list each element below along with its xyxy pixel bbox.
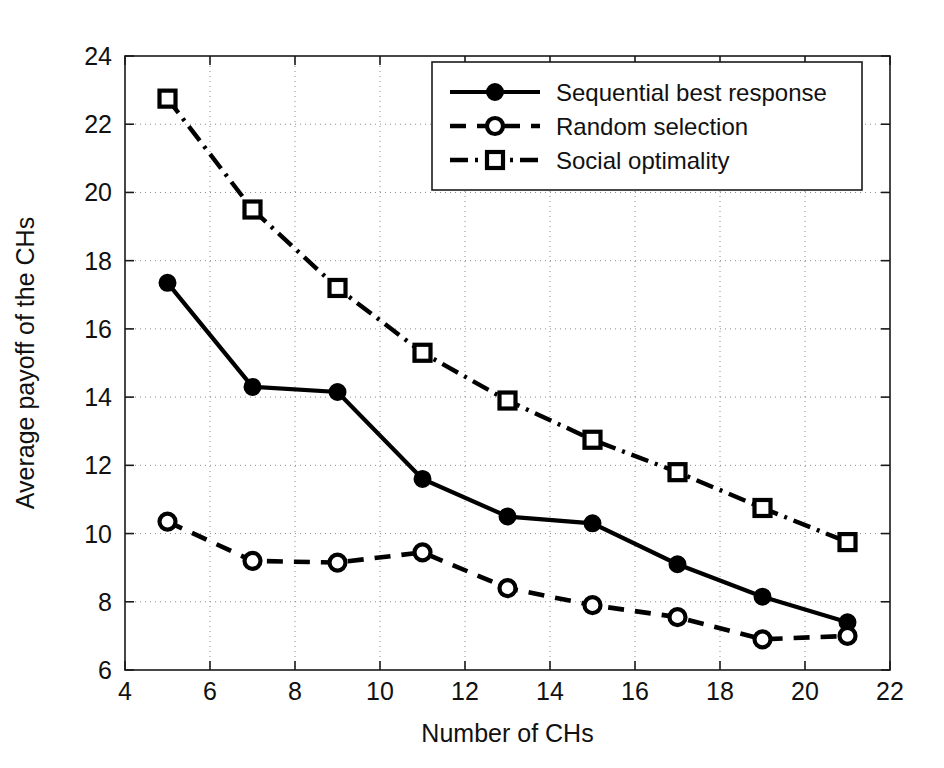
x-tick-label: 10 [366,677,394,705]
legend-label: Social optimality [556,147,729,174]
data-point-marker [670,609,686,625]
x-axis-title: Number of CHs [421,719,593,747]
legend-item-2[interactable]: Social optimality [450,147,729,174]
y-tick-label: 8 [98,588,112,616]
y-tick-label: 6 [98,656,112,684]
data-point-marker [245,379,260,394]
y-tick-label: 18 [84,247,112,275]
data-point-marker [500,509,515,524]
x-tick-label: 8 [288,677,302,705]
x-tick-label: 14 [536,677,564,705]
data-point-marker [330,555,346,571]
data-point-marker [840,628,856,644]
x-tick-label: 12 [451,677,479,705]
legend-label: Sequential best response [556,79,827,106]
data-point-marker [840,534,856,550]
data-point-marker [670,557,685,572]
data-point-marker [585,516,600,531]
legend-label: Random selection [556,113,748,140]
x-tick-label: 4 [118,677,132,705]
data-point-marker [160,514,176,530]
data-point-marker [415,471,430,486]
series-line-0 [168,283,848,622]
data-point-marker [755,500,771,516]
data-point-marker [585,432,601,448]
y-tick-label: 10 [84,520,112,548]
data-point-marker [585,597,601,613]
data-point-marker [415,544,431,560]
y-tick-label: 22 [84,110,112,138]
legend-item-1[interactable]: Random selection [450,113,748,140]
legend-marker-swatch [488,85,503,100]
data-point-marker [755,631,771,647]
data-point-marker [415,345,431,361]
chart-plot-area: 46810121416182022681012141618202224 Sequ… [0,0,944,768]
figure-canvas: 46810121416182022681012141618202224 Sequ… [0,0,944,768]
data-point-marker [330,280,346,296]
y-axis-title: Average payoff of the CHs [11,217,39,509]
legend[interactable]: Sequential best responseRandom selection… [432,62,862,190]
data-point-marker [670,464,686,480]
legend-marker-swatch [487,118,503,134]
data-point-marker [245,553,261,569]
data-point-marker [330,384,345,399]
x-tick-label: 16 [621,677,649,705]
data-point-marker [500,393,516,409]
data-point-marker [755,589,770,604]
y-tick-label: 12 [84,451,112,479]
data-point-marker [500,580,516,596]
data-point-marker [160,91,176,107]
line-chart: 46810121416182022681012141618202224 Sequ… [0,0,944,768]
x-tick-label: 6 [203,677,217,705]
data-point-marker [160,275,175,290]
y-tick-label: 16 [84,315,112,343]
legend-marker-swatch [487,152,503,168]
y-tick-label: 20 [84,178,112,206]
y-tick-label: 14 [84,383,112,411]
y-tick-label: 24 [84,42,112,70]
x-tick-label: 22 [876,677,904,705]
x-tick-label: 20 [791,677,819,705]
x-tick-label: 18 [706,677,734,705]
data-point-marker [245,202,261,218]
